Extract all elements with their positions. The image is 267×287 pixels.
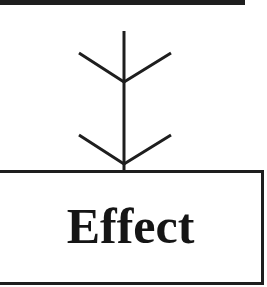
- effect-label: Effect: [67, 197, 195, 255]
- effect-box: Effect: [0, 170, 264, 285]
